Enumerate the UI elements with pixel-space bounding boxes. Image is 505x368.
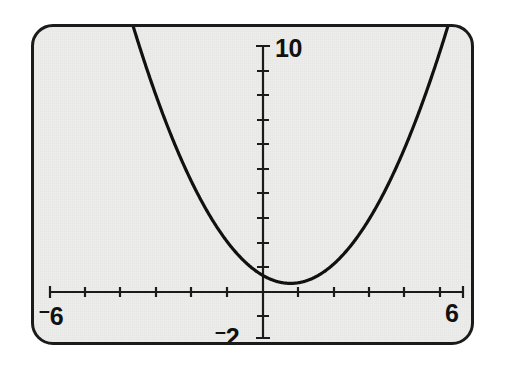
graph-plot-area: [34, 27, 471, 342]
x-axis-min-label: –6: [39, 301, 63, 329]
parabola-curve: [132, 27, 450, 283]
x-min-negative-sign: –: [39, 301, 49, 321]
calculator-screen: –6 6 10 –2: [31, 24, 474, 345]
y-axis-min-label: –2: [215, 322, 239, 345]
y-min-negative-sign: –: [215, 322, 225, 342]
x-axis-max-label: 6: [445, 301, 458, 326]
y-min-value: 2: [226, 323, 239, 345]
x-min-value: 6: [50, 302, 63, 330]
y-axis-max-label: 10: [275, 36, 302, 61]
screenshot-root: –6 6 10 –2: [0, 0, 505, 368]
